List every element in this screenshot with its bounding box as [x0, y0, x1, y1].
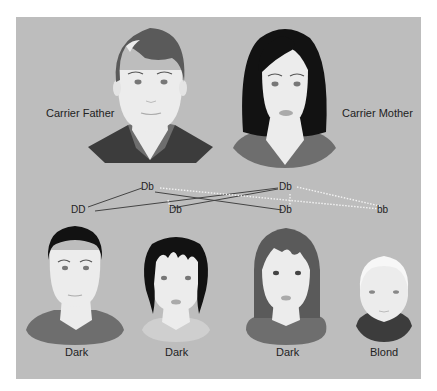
- offspring-genotype-3: Db: [279, 204, 292, 215]
- offspring-genotype-2: Db: [169, 204, 182, 215]
- mother-portrait: [233, 29, 336, 168]
- child-4-label: Blond: [370, 346, 398, 358]
- father-label: Carrier Father: [46, 107, 114, 119]
- child-2-label: Dark: [165, 346, 188, 358]
- father-portrait: [88, 28, 213, 163]
- child-3-label: Dark: [276, 346, 299, 358]
- child-4-portrait: [356, 256, 412, 342]
- child-3-portrait: [246, 228, 326, 345]
- mother-genotype: Db: [279, 181, 292, 192]
- child-2-portrait: [142, 237, 210, 342]
- offspring-genotype-1: DD: [71, 204, 85, 215]
- mother-label: Carrier Mother: [342, 107, 413, 119]
- offspring-genotype-4: bb: [377, 204, 388, 215]
- inheritance-lines: [88, 187, 380, 211]
- child-1-label: Dark: [65, 346, 88, 358]
- father-genotype: Db: [141, 181, 154, 192]
- child-1-portrait: [26, 226, 124, 345]
- pedigree-illustration: [0, 0, 437, 391]
